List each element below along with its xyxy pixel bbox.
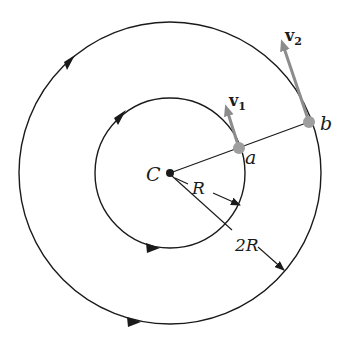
velocity-v2-vector — [283, 45, 309, 122]
point-b — [303, 116, 315, 128]
velocity-v1-label: v1 — [228, 91, 246, 113]
inner-direction-arrow-top — [114, 110, 126, 125]
circular-motion-diagram: C R 2R a b v1 v2 — [0, 0, 353, 337]
outer-direction-arrow-top — [64, 55, 75, 70]
radius-r-arrow — [213, 193, 240, 205]
point-a — [233, 142, 245, 154]
point-a-label: a — [245, 146, 256, 168]
velocity-v2-label: v2 — [284, 26, 302, 48]
center-point — [166, 169, 174, 177]
radius-2r-arrow — [258, 247, 284, 270]
radius-r-label: R — [191, 178, 205, 198]
point-b-label: b — [320, 112, 332, 134]
outer-direction-arrow-bottom — [127, 317, 141, 327]
diagram-canvas: C R 2R a b v1 v2 — [0, 0, 353, 337]
inner-direction-arrow-bottom — [146, 243, 160, 253]
radius-2r-label: 2R — [234, 235, 259, 255]
center-label: C — [146, 163, 161, 185]
